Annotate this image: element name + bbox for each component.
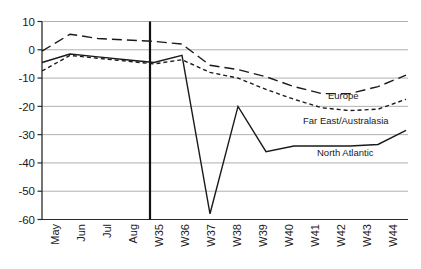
x-tick-label: W44 — [387, 224, 399, 247]
y-tick-label: 0 — [29, 44, 35, 56]
x-tick-label: Aug — [127, 224, 139, 244]
y-tick-label: -60 — [18, 214, 35, 226]
y-tick-label: -10 — [18, 72, 35, 84]
series-label-north-atlantic: North Atlantic — [317, 147, 374, 158]
series-label-far-east-australasia: Far East/Australasia — [303, 115, 389, 126]
x-tick-label: W37 — [205, 224, 217, 247]
airline-performance-chart-figure: 100-10-20-30-40-50-60MayJunJulAugW35W36W… — [0, 0, 421, 269]
series-line-europe — [42, 34, 406, 93]
x-tick-label: W38 — [231, 224, 243, 247]
y-tick-label: -50 — [18, 185, 35, 197]
x-tick-label: W43 — [361, 224, 373, 247]
y-tick-label: 10 — [22, 16, 35, 28]
x-tick-label: W42 — [335, 224, 347, 247]
x-tick-label: Jun — [75, 224, 87, 242]
line-chart: 100-10-20-30-40-50-60MayJunJulAugW35W36W… — [0, 0, 421, 269]
y-tick-label: -30 — [18, 129, 35, 141]
x-tick-label: May — [49, 224, 61, 245]
x-tick-label: W36 — [179, 224, 191, 247]
y-tick-label: -20 — [18, 101, 35, 113]
x-tick-label: W39 — [257, 224, 269, 247]
series-label-europe: Europe — [328, 90, 359, 101]
series-line-far-east-australasia — [42, 55, 406, 110]
x-tick-label: W40 — [283, 224, 295, 247]
y-tick-label: -40 — [18, 157, 35, 169]
x-tick-label: W41 — [309, 224, 321, 247]
x-tick-label: W35 — [153, 224, 165, 247]
x-tick-label: Jul — [101, 224, 113, 238]
